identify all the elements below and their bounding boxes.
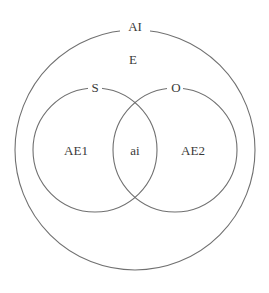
right-set-label: O — [171, 80, 180, 95]
outer-set-label: AI — [128, 19, 142, 34]
outer-region-label: E — [129, 52, 137, 67]
venn-svg: AI E S O AE1 ai AE2 — [0, 0, 269, 293]
venn-diagram: AI E S O AE1 ai AE2 — [0, 0, 269, 293]
left-set-label: S — [91, 80, 98, 95]
left-region-label: AE1 — [64, 143, 88, 158]
intersection-region-label: ai — [130, 143, 140, 158]
right-region-label: AE2 — [181, 143, 205, 158]
